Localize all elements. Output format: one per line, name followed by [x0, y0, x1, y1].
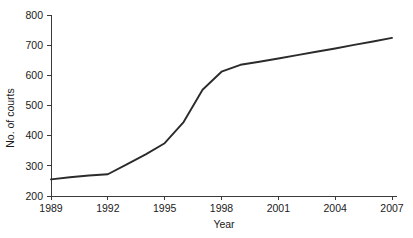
y-axis: 200300400500600700800 No. of courts [4, 9, 51, 202]
line-chart: 200300400500600700800 No. of courts 1989… [0, 0, 413, 238]
x-axis-tick-labels: 1989199219951998200120042007 [39, 202, 404, 214]
y-tick-label: 400 [25, 129, 43, 141]
x-tick-label: 1995 [153, 202, 177, 214]
y-tick-label: 300 [25, 160, 43, 172]
y-axis-tick-labels: 200300400500600700800 [25, 9, 43, 202]
x-tick-label: 2007 [380, 202, 404, 214]
x-tick-label: 1989 [39, 202, 63, 214]
chart-figure: 200300400500600700800 No. of courts 1989… [0, 0, 413, 238]
y-axis-ticks [47, 15, 51, 196]
y-tick-label: 700 [25, 39, 43, 51]
y-tick-label: 800 [25, 9, 43, 21]
x-tick-label: 1998 [210, 202, 234, 214]
y-tick-label: 600 [25, 69, 43, 81]
y-tick-label: 200 [25, 190, 43, 202]
x-tick-label: 2004 [323, 202, 347, 214]
x-tick-label: 2001 [267, 202, 291, 214]
x-axis: 1989199219951998200120042007 Year [39, 196, 404, 230]
data-series-line [51, 38, 392, 179]
y-axis-title: No. of courts [4, 88, 16, 148]
y-tick-label: 500 [25, 99, 43, 111]
x-tick-label: 1992 [96, 202, 120, 214]
x-axis-title: Year [213, 218, 235, 230]
x-axis-ticks [51, 196, 392, 200]
